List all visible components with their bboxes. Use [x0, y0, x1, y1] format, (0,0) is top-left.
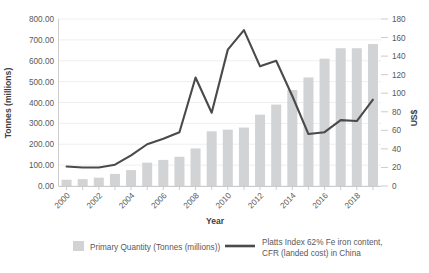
bar-2008 [191, 148, 201, 186]
bar-2010 [223, 130, 233, 186]
bar-2019 [368, 44, 378, 186]
y2-axis-title: US$ [409, 109, 419, 126]
y-tick-300.00: 300.00 [29, 119, 54, 128]
bar-2002 [94, 178, 104, 186]
y-axis-title: Tonnes (millions) [3, 68, 13, 139]
x-axis-tick-labels: 2000200220042006200820102012201420162018 [53, 191, 363, 211]
x-axis-tick-marks [67, 187, 373, 191]
gridlines-group [59, 19, 382, 186]
bar-2001 [78, 179, 88, 186]
y-tick-200.00: 200.00 [29, 140, 54, 149]
y-tick-500.00: 500.00 [29, 78, 54, 87]
y-tick-800.00: 800.00 [29, 15, 54, 24]
y-tick-600.00: 600.00 [29, 57, 54, 66]
x-tick-2006: 2006 [149, 191, 169, 211]
x-tick-2014: 2014 [278, 191, 298, 211]
bar-2011 [239, 128, 249, 186]
y2-axis-tick-marks [381, 19, 388, 186]
bar-2013 [271, 105, 281, 186]
y2-tick-120: 120 [392, 71, 406, 80]
x-tick-2018: 2018 [343, 191, 363, 211]
x-tick-2010: 2010 [214, 191, 234, 211]
y-tick-400.00: 400.00 [29, 99, 54, 108]
legend-swatch-primary-quantity [73, 241, 84, 251]
y2-tick-20: 20 [392, 163, 402, 172]
y-tick-100.00: 100.00 [29, 161, 54, 170]
bar-2000 [62, 180, 72, 186]
legend-label-primary-quantity: Primary Quantity (Tonnes (millions)) [90, 243, 220, 252]
y2-tick-180: 180 [392, 15, 406, 24]
y2-tick-0: 0 [392, 182, 397, 191]
y-tick-0.00: 0.00 [38, 182, 54, 191]
iron-ore-quantity-and-price-chart: 0.00100.00200.00300.00400.00500.00600.00… [0, 0, 429, 273]
bar-2003 [110, 174, 120, 186]
x-tick-2016: 2016 [311, 191, 331, 211]
y-tick-700.00: 700.00 [29, 36, 54, 45]
bar-2012 [255, 115, 265, 186]
bar-2007 [174, 157, 184, 186]
bar-2009 [207, 131, 217, 186]
y2-tick-160: 160 [392, 34, 406, 43]
legend: Primary Quantity (Tonnes (millions)) Pla… [73, 238, 383, 258]
y2-tick-100: 100 [392, 89, 406, 98]
x-tick-2012: 2012 [246, 191, 266, 211]
y-axis-tick-labels: 0.00100.00200.00300.00400.00500.00600.00… [29, 15, 54, 191]
bar-2006 [158, 160, 168, 186]
chart-container: 0.00100.00200.00300.00400.00500.00600.00… [0, 0, 429, 273]
y2-tick-80: 80 [392, 108, 402, 117]
x-tick-2000: 2000 [53, 191, 73, 211]
y2-tick-140: 140 [392, 52, 406, 61]
bar-2017 [336, 48, 346, 186]
y2-axis-tick-labels: 020406080100120140160180 [392, 15, 406, 191]
legend-label-platts-index-line1: Platts Index 62% Fe iron content, [262, 238, 383, 247]
bar-2016 [320, 59, 330, 186]
legend-label-platts-index-line2: CFR (landed cost) in China [262, 249, 361, 258]
x-tick-2008: 2008 [182, 191, 202, 211]
x-axis-title: Year [206, 216, 225, 226]
x-tick-2004: 2004 [117, 191, 137, 211]
y2-tick-60: 60 [392, 126, 402, 135]
x-tick-2002: 2002 [85, 191, 105, 211]
y2-tick-40: 40 [392, 145, 402, 154]
bar-2005 [142, 163, 152, 186]
bar-2004 [126, 170, 136, 186]
